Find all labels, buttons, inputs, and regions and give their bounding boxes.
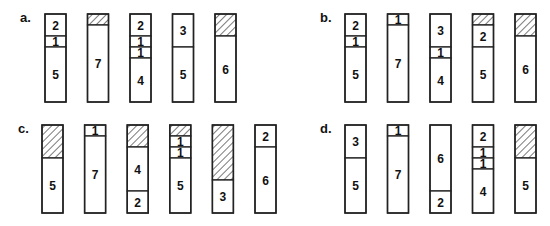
item-size-label: 5	[177, 179, 184, 193]
item-size-label: 7	[95, 57, 102, 71]
bin: 6	[215, 14, 236, 102]
item-size-label: 3	[437, 24, 444, 38]
empty-space-hatched	[212, 125, 233, 180]
item-size-label: 7	[395, 168, 402, 182]
panel-a: a.21572114356	[20, 10, 236, 102]
empty-space-hatched	[88, 14, 109, 25]
bin: 17	[388, 13, 409, 102]
item-size-label: 3	[180, 24, 187, 38]
item-size-label: 5	[180, 68, 187, 82]
empty-space-hatched	[515, 125, 536, 158]
item-size-label: 4	[437, 74, 444, 88]
bin: 26	[255, 125, 276, 213]
bin: 215	[45, 14, 66, 102]
item-size-label: 2	[437, 196, 444, 210]
item-size-label: 2	[137, 19, 144, 33]
bin: 7	[88, 14, 109, 102]
bin: 42	[127, 125, 148, 213]
item-size-label: 5	[52, 68, 59, 82]
empty-space-hatched	[127, 125, 148, 147]
item-size-label: 6	[262, 174, 269, 188]
item-size-label: 5	[49, 179, 56, 193]
item-size-label: 4	[480, 185, 487, 199]
panel-c: c.51742115326	[18, 121, 276, 213]
empty-space-hatched	[215, 14, 236, 36]
empty-space-hatched	[473, 14, 494, 25]
panel-d: d.35176221145	[320, 121, 536, 213]
item-size-label: 3	[220, 190, 227, 204]
empty-space-hatched	[42, 125, 63, 158]
bin: 17	[388, 124, 409, 213]
item-size-label: 2	[480, 30, 487, 44]
bin: 17	[85, 124, 106, 213]
item-size-label: 5	[352, 68, 359, 82]
item-size-label: 4	[137, 74, 144, 88]
bin-packing-diagram: a.21572114356b.21517314256c.51742115326d…	[0, 0, 550, 226]
bin: 2114	[130, 14, 151, 102]
bin: 215	[345, 14, 366, 102]
bin: 25	[473, 14, 494, 102]
panel-b: b.21517314256	[320, 10, 536, 102]
item-size-label: 5	[480, 68, 487, 82]
item-size-label: 6	[222, 63, 229, 77]
bin: 5	[515, 125, 536, 213]
item-size-label: 2	[134, 196, 141, 210]
item-size-label: 5	[522, 179, 529, 193]
bin: 115	[170, 125, 191, 213]
item-size-label: 7	[92, 168, 99, 182]
panel-label: a.	[20, 10, 31, 25]
panel-label: c.	[18, 121, 29, 136]
item-size-label: 7	[395, 57, 402, 71]
item-size-label: 5	[352, 179, 359, 193]
item-size-label: 2	[352, 19, 359, 33]
item-size-label: 2	[480, 130, 487, 144]
panel-label: d.	[320, 121, 332, 136]
bin: 35	[173, 14, 194, 102]
item-size-label: 2	[52, 19, 59, 33]
item-size-label: 6	[522, 63, 529, 77]
bin: 6	[515, 14, 536, 102]
empty-space-hatched	[515, 14, 536, 36]
panel-label: b.	[320, 10, 332, 25]
item-size-label: 2	[262, 130, 269, 144]
bin: 314	[430, 14, 451, 102]
bin: 62	[430, 125, 451, 213]
item-size-label: 4	[134, 163, 141, 177]
bin: 5	[42, 125, 63, 213]
item-size-label: 3	[352, 135, 359, 149]
bin: 35	[345, 125, 366, 213]
bin: 3	[212, 125, 233, 213]
bin: 2114	[473, 125, 494, 213]
item-size-label: 6	[437, 152, 444, 166]
